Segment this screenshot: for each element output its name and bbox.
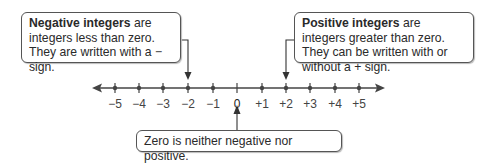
negative-integers-callout: Negative integers are integers less than… <box>21 12 181 63</box>
tick-label: −5 <box>108 97 122 111</box>
tick-label-zero: 0 <box>234 97 241 111</box>
tick-label: +3 <box>303 97 317 111</box>
zero-callout: Zero is neither negative nor positive. <box>136 130 342 152</box>
positive-integers-term: Positive integers <box>302 16 400 30</box>
tick-label: +1 <box>255 97 269 111</box>
tick-label: −2 <box>181 97 195 111</box>
negative-integers-term: Negative integers <box>29 16 131 30</box>
tick-label: −1 <box>206 97 220 111</box>
tick-label: −4 <box>132 97 146 111</box>
tick-label: −3 <box>156 97 170 111</box>
tick-label: +4 <box>328 97 342 111</box>
tick-label: +2 <box>279 97 293 111</box>
tick-label: +5 <box>352 97 366 111</box>
positive-integers-callout: Positive integers are integers greater t… <box>294 12 474 63</box>
